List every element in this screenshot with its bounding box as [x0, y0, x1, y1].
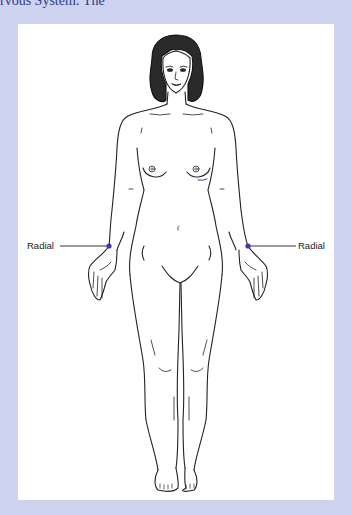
left-radial-pulse-point — [106, 243, 111, 248]
right-radial-pulse-point — [245, 243, 250, 248]
left-radial-label: Radial — [27, 240, 54, 251]
right-radial-label: Radial — [298, 240, 325, 251]
pulse-annotations — [0, 0, 352, 515]
